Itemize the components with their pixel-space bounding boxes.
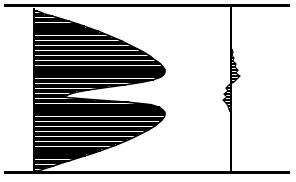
- primary-histogram-bars: [34, 11, 165, 170]
- primary-envelope-path: [38, 11, 165, 170]
- histogram-plot: [0, 0, 296, 182]
- figure-container: [0, 0, 296, 182]
